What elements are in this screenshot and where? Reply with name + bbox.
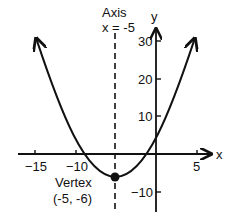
y-tick-label: 30 <box>138 34 152 49</box>
vertex-point <box>111 173 120 182</box>
y-tick-label: 20 <box>138 72 152 87</box>
y-tick-label: −10 <box>131 185 153 200</box>
x-tick-label: −10 <box>66 159 88 174</box>
axis-title: Axis <box>102 5 127 20</box>
x-tick-label: −15 <box>25 159 47 174</box>
y-tick-label: 10 <box>138 109 152 124</box>
axis-equation: x = -5 <box>102 20 135 35</box>
vertex-coordinates: (-5, -6) <box>53 191 92 206</box>
vertex-title: Vertex <box>55 175 92 190</box>
x-axis-label: x <box>216 147 223 162</box>
x-tick-label: 5 <box>193 159 200 174</box>
y-axis-label: y <box>151 9 158 24</box>
parabola-chart: x y −15 −10 5 30 20 10 −10 Axis x = -5 V… <box>0 0 236 220</box>
